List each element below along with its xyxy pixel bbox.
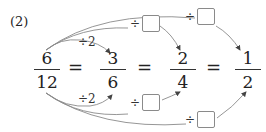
- bottom-op-divide-blank-1: ÷: [130, 96, 140, 110]
- denominator: 4: [170, 73, 196, 91]
- divide-sign: ÷: [78, 92, 88, 106]
- fraction-6-12: 6 12: [34, 49, 60, 91]
- equals-sign: =: [137, 57, 152, 78]
- top-op-divide-2: ÷2: [78, 35, 96, 49]
- equals-sign: =: [68, 57, 83, 78]
- divisor-value: 2: [88, 35, 96, 49]
- problem-label: (2): [10, 14, 28, 29]
- divide-sign: ÷: [130, 17, 140, 31]
- equals-sign: =: [206, 57, 221, 78]
- answer-box-top-1[interactable]: [142, 15, 160, 32]
- top-op-divide-blank-2: ÷: [185, 10, 195, 24]
- numerator: 3: [100, 49, 126, 67]
- divide-sign: ÷: [185, 113, 195, 127]
- divide-sign: ÷: [130, 96, 140, 110]
- denominator: 6: [100, 73, 126, 91]
- numerator: 2: [170, 49, 196, 67]
- answer-box-bottom-1[interactable]: [142, 94, 160, 111]
- denominator: 12: [34, 73, 60, 91]
- answer-box-top-2[interactable]: [197, 8, 215, 25]
- divisor-value: 2: [88, 92, 96, 106]
- numerator: 1: [235, 49, 261, 67]
- fraction-3-6: 3 6: [100, 49, 126, 91]
- fraction-bar: [100, 69, 126, 70]
- fraction-bar: [34, 69, 60, 70]
- top-op-divide-blank-1: ÷: [130, 17, 140, 31]
- numerator: 6: [34, 49, 60, 67]
- bottom-op-divide-2: ÷2: [78, 92, 96, 106]
- divide-sign: ÷: [185, 10, 195, 24]
- fraction-bar: [235, 69, 261, 70]
- bottom-op-divide-blank-2: ÷: [185, 113, 195, 127]
- divide-sign: ÷: [78, 35, 88, 49]
- fraction-2-4: 2 4: [170, 49, 196, 91]
- fraction-bar: [170, 69, 196, 70]
- answer-box-bottom-2[interactable]: [197, 111, 215, 128]
- denominator: 2: [235, 73, 261, 91]
- fraction-1-2: 1 2: [235, 49, 261, 91]
